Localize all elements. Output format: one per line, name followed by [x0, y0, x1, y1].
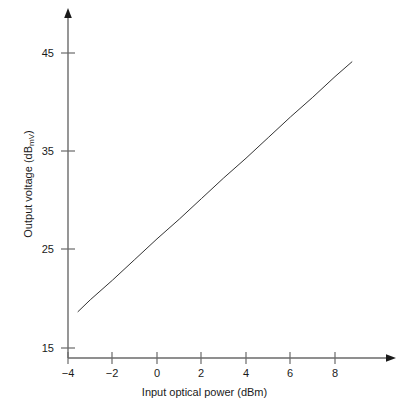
plot-area [0, 0, 409, 418]
xtick-label-8: 8 [320, 367, 350, 379]
xtick-label-4: 4 [231, 367, 261, 379]
y-axis-arrow-icon [64, 8, 72, 18]
ytick-label-15: 15 [24, 342, 54, 354]
x-axis-title: Input optical power (dBm) [0, 386, 409, 398]
ytick-label-45: 45 [24, 47, 54, 59]
xtick-label-0: 0 [142, 367, 172, 379]
x-axis-arrow-icon [386, 354, 396, 362]
xtick-label-minus2: −2 [97, 367, 127, 379]
y-axis-title: Output voltage (dBmV) [22, 74, 34, 294]
y-axis-title-main: Output voltage (dB [22, 146, 34, 238]
xtick-label-minus4: −4 [53, 367, 83, 379]
xtick-label-2: 2 [186, 367, 216, 379]
data-line-series-0 [78, 62, 352, 312]
y-axis-title-subscript: mV [27, 134, 36, 146]
xtick-label-6: 6 [275, 367, 305, 379]
chart-figure: 45 35 25 15 −4 −2 0 2 4 6 8 Input optica… [0, 0, 409, 418]
